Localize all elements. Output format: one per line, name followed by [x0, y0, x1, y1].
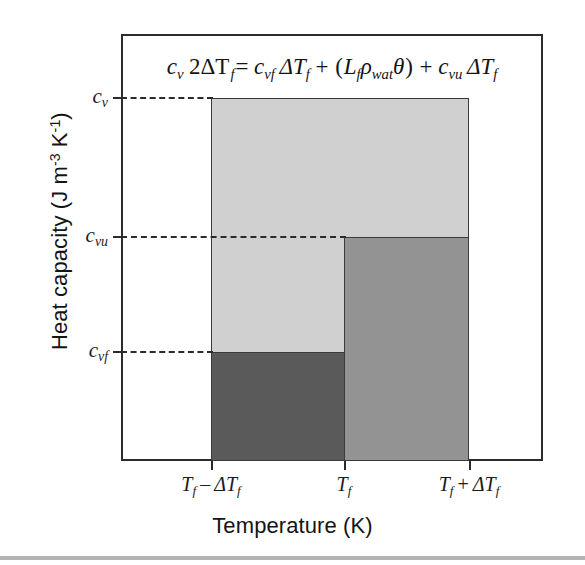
guide-line-cvu: [121, 236, 346, 238]
xtick-label-3-t2: ΔT: [473, 473, 496, 495]
ytick-label-cvf-base: c: [89, 338, 98, 362]
y-axis-title: Heat capacity (J m-3 K-1): [47, 21, 73, 441]
heat-capacity-figure: cv cvu cvf Tf – ΔTf Tf Tf + ΔTf cv 2ΔTf=…: [0, 0, 585, 565]
ytick-label-cvf-sub: vf: [98, 349, 108, 364]
xtick-label-1-t1: T: [181, 473, 192, 495]
xtick-label-tf-plus-dtf: Tf + ΔTf: [394, 474, 544, 497]
bar-unfrozen-soil-heat-capacity: [344, 237, 469, 461]
xtick-tf: [344, 461, 346, 470]
y-axis-title-exp-2: -1: [47, 120, 63, 133]
eq-t1-c: c: [254, 54, 264, 79]
xtick-label-1-s1: f: [192, 483, 196, 498]
xtick-label-2-t1: T: [337, 473, 348, 495]
y-axis-title-main: Heat capacity (J m: [47, 166, 72, 350]
x-axis-title: Temperature (K): [0, 513, 585, 539]
eq-t1-dt: ΔT: [280, 54, 306, 79]
xtick-label-tf-minus-dtf: Tf – ΔTf: [136, 474, 286, 497]
eq-lhs-c-sub: v: [177, 66, 184, 82]
bottom-rule-divider: [0, 556, 585, 560]
eq-lhs-coeff: 2ΔT: [188, 54, 230, 79]
eq-t2-rho: ρ: [361, 54, 372, 79]
eq-t3-c-sub: vu: [448, 66, 462, 82]
xtick-tf-minus-dtf: [211, 461, 213, 470]
eq-plus-2: +: [419, 54, 434, 79]
bar-frozen-soil-heat-capacity: [211, 352, 345, 461]
guide-line-cv: [121, 97, 213, 99]
ytick-label-cvu-base: c: [86, 223, 95, 247]
ytick-cvu: [113, 236, 122, 238]
xtick-label-1-op: –: [200, 473, 210, 495]
xtick-label-3-t1: T: [439, 473, 450, 495]
eq-paren-open: (: [334, 54, 344, 79]
xtick-label-3-s2: f: [496, 483, 500, 498]
eq-lhs-c: c: [167, 54, 177, 79]
eq-equals: =: [234, 54, 249, 79]
xtick-label-tf: Tf: [304, 474, 384, 497]
eq-t3-dt: ΔT: [467, 54, 493, 79]
eq-t2-theta: θ: [393, 54, 404, 79]
xtick-label-2-s1: f: [348, 483, 352, 498]
ytick-label-cv-sub: v: [102, 95, 108, 110]
ytick-label-cv-base: c: [93, 84, 102, 108]
xtick-tf-plus-dtf: [469, 461, 471, 470]
eq-t1-dt-sub: f: [306, 66, 310, 82]
eq-plus-1: +: [315, 54, 330, 79]
ytick-cv: [113, 97, 122, 99]
ytick-label-cvu-sub: vu: [95, 234, 108, 249]
eq-t3-c: c: [438, 54, 448, 79]
y-axis-title-exp-1: -3: [47, 153, 63, 166]
y-axis-title-mid: K: [47, 132, 72, 153]
xtick-label-3-op: +: [457, 473, 468, 495]
eq-t1-c-sub: vf: [264, 66, 275, 82]
eq-t2-L: L: [344, 54, 357, 79]
eq-paren-close: ): [404, 54, 414, 79]
equation-annotation: cv 2ΔTf= cvf ΔTf + (Lfρwatθ) + cvu ΔTf: [121, 55, 543, 81]
y-axis-title-end: ): [47, 112, 72, 119]
xtick-label-3-s1: f: [450, 483, 454, 498]
xtick-label-1-t2: ΔT: [214, 473, 237, 495]
guide-line-cvf: [121, 351, 213, 353]
xtick-label-1-s2: f: [237, 483, 241, 498]
eq-t3-dt-sub: f: [493, 66, 497, 82]
eq-t2-rho-sub: wat: [372, 66, 393, 82]
ytick-cvf: [113, 351, 122, 353]
